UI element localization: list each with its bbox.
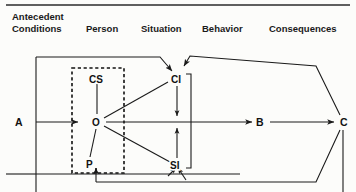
column-heading-antecedent-line2: Conditions bbox=[12, 23, 62, 34]
node-si: SI bbox=[170, 160, 180, 171]
node-c: C bbox=[340, 116, 348, 128]
node-b: B bbox=[256, 116, 264, 128]
feedback-c-to-ci bbox=[184, 56, 340, 115]
situation-bracket bbox=[186, 74, 191, 168]
node-a: A bbox=[15, 116, 23, 128]
node-o: O bbox=[92, 117, 100, 128]
column-heading-antecedent-line1: Antecedent bbox=[12, 11, 65, 22]
column-heading-person: Person bbox=[86, 23, 118, 34]
node-cs: CS bbox=[89, 74, 103, 85]
diagram-svg: Antecedent Conditions Person Situation B… bbox=[0, 0, 356, 192]
edge-antecedent-to-ci bbox=[36, 57, 172, 71]
column-heading-consequences: Consequences bbox=[269, 23, 337, 34]
node-ci: CI bbox=[171, 74, 181, 85]
column-heading-situation: Situation bbox=[141, 23, 182, 34]
node-p: P bbox=[86, 159, 93, 170]
edge-o-to-ci bbox=[104, 82, 168, 118]
edge-o-to-p bbox=[90, 129, 96, 157]
edge-o-to-si bbox=[104, 126, 170, 162]
column-heading-behavior: Behavior bbox=[202, 23, 243, 34]
figure-canvas: Antecedent Conditions Person Situation B… bbox=[0, 0, 356, 192]
